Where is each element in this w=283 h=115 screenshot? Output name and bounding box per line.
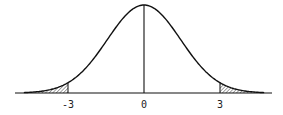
normal-curve-diagram: -3 0 3 xyxy=(0,0,283,115)
left-tail-shaded-region xyxy=(24,83,68,93)
right-tail-shaded-region xyxy=(220,83,264,93)
tick-label-0: 0 xyxy=(141,99,147,110)
tick-label-3: 3 xyxy=(217,99,223,110)
tick-label-minus-3: -3 xyxy=(62,99,74,110)
